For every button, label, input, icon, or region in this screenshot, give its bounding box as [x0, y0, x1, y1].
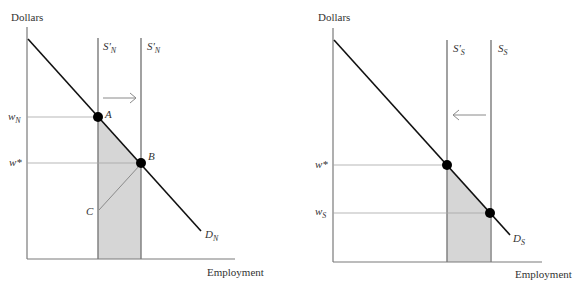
right-demand-line [334, 40, 510, 235]
left-point-B-label: B [148, 150, 155, 162]
left-supply-1-label: S'N [103, 40, 117, 55]
chart-canvas: Dollars Employment S'N S'N DN wN w* A B … [0, 0, 579, 288]
right-shaded-area [447, 165, 490, 262]
left-wN-label: wN [8, 110, 21, 125]
left-y-axis-label: Dollars [11, 11, 43, 23]
left-point-C-label: C [86, 205, 94, 217]
left-wstar-label: w* [9, 156, 22, 168]
left-x-axis-label: Employment [207, 266, 264, 278]
left-point-A-label: A [104, 108, 112, 120]
right-point-wstar [442, 160, 452, 170]
right-x-axis-label: Employment [515, 268, 572, 280]
right-wS-label: wS [315, 205, 326, 220]
right-supply-2-label: SS [498, 42, 508, 57]
right-supply-1-label: S'S [453, 42, 465, 57]
left-supply-2-label: S'N [147, 40, 161, 55]
right-point-wS [485, 208, 495, 218]
left-demand-label: DN [204, 228, 219, 243]
right-y-axis-label: Dollars [318, 11, 350, 23]
left-point-B [136, 158, 146, 168]
right-chart: Dollars Employment S'S SS DS w* wS [315, 11, 572, 280]
left-point-A [93, 112, 103, 122]
right-shift-arrow-icon [453, 110, 486, 120]
left-chart: Dollars Employment S'N S'N DN wN w* A B … [8, 11, 264, 278]
right-wstar-label: w* [315, 158, 328, 170]
left-shift-arrow-icon [103, 93, 136, 103]
right-demand-label: DS [512, 232, 525, 247]
